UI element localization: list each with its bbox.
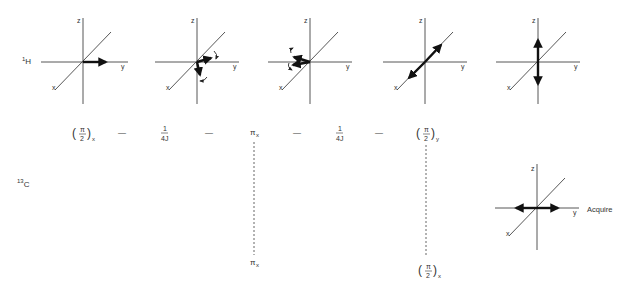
pulse-numerator: π [80,126,85,133]
paren-right: ) [431,126,435,140]
proton-label: 1H [22,56,31,66]
vector-frame-1: z y x [41,17,128,104]
rotation-arrow-icon [214,51,217,59]
vector-frame-4: z y x [383,17,467,104]
pulse-pi-x: π x [250,128,259,138]
sequence-dash: — [375,128,383,137]
pulse-numerator: π [424,126,429,133]
vector-minus-x [425,45,441,62]
z-label: z [532,17,536,24]
y-label: y [121,63,125,71]
vector-frame-5: z y x [496,17,580,104]
paren-left: ( [418,263,422,277]
x-label: x [166,84,170,91]
x-label: x [506,230,510,237]
paren-left: ( [72,126,76,140]
pulse-pi-half-x: ( π 2 ) x [72,126,95,142]
carbon-vector-frame: z y x [495,164,579,250]
delay-numerator: 1 [338,125,342,132]
pulse-phase: x [92,136,95,142]
vector-frame-2: z y x [155,17,239,104]
pulse-phase: y [436,136,439,142]
delay-denominator: 4J [336,135,343,142]
paren-right: ) [433,263,437,277]
x-label: x [507,84,511,91]
rotation-arrow-icon [290,48,293,53]
sequence-dash: — [118,128,126,137]
vector-plus-x [409,62,425,78]
y-label: y [461,63,465,71]
pulse-denominator: 2 [80,135,84,142]
paren-left: ( [416,126,420,140]
z-label: z [77,17,81,24]
pulse-denominator: 2 [426,272,430,279]
y-label: y [346,63,350,71]
z-label: z [419,17,423,24]
rotation-arrow-icon [288,63,292,70]
z-label: z [304,17,308,24]
rotation-arrow-icon [200,77,207,81]
pulse-numerator: π [426,263,431,270]
sequence-dash: — [205,128,213,137]
carbon-label: 13C [17,178,30,189]
slow-vector [293,62,310,65]
delay-numerator: 1 [163,125,167,132]
pulse-phase: x [256,132,259,138]
z-label: z [191,17,195,24]
y-label: y [233,63,237,71]
pulse-pi-half-y: ( π 2 ) y [416,126,439,142]
y-label: y [574,63,578,71]
x-label: x [394,84,398,91]
acquire-label: Acquire [587,205,612,214]
inept-diagram: 1H 13C z y x z y x z y x [0,0,631,287]
sequence-dash: — [293,128,301,137]
delay-1-over-4J: 1 4J [336,125,343,142]
x-label: x [52,84,56,91]
vector-frame-3: z y x [268,17,352,104]
pulse-phase: x [256,262,259,268]
y-label: y [573,209,577,217]
x-label: x [279,84,283,91]
carbon-pulse-pi-x: π x [250,258,259,268]
proton-pulse-sequence: ( π 2 ) x — 1 4J — π x — 1 4J — ( [72,125,439,142]
delay-denominator: 4J [161,135,168,142]
carbon-pulse-pi-half-x: ( π 2 ) x [418,263,441,279]
z-label: z [531,165,535,172]
pulse-denominator: 2 [424,135,428,142]
pulse-phase: x [438,273,441,279]
paren-right: ) [87,126,91,140]
delay-1-over-4J: 1 4J [161,125,168,142]
